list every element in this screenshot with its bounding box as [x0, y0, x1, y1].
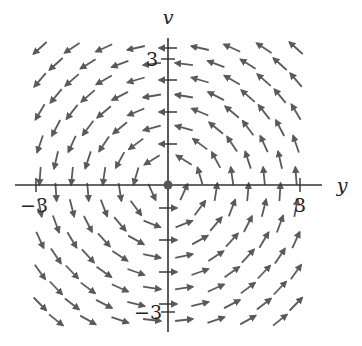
- field-arrow: [192, 269, 209, 275]
- field-arrow: [96, 76, 112, 85]
- field-arrow: [66, 105, 77, 119]
- field-arrow: [242, 249, 254, 262]
- field-arrow: [127, 78, 144, 83]
- v-axis-label: v: [163, 6, 174, 28]
- field-arrow: [292, 232, 299, 248]
- field-arrow: [97, 106, 111, 118]
- field-arrow: [129, 139, 143, 150]
- tick-label-v-pos3: 3: [146, 48, 158, 70]
- field-arrow: [192, 236, 208, 245]
- field-arrow: [52, 120, 60, 136]
- field-arrow: [66, 266, 78, 279]
- equilibrium-point-marker: [164, 181, 173, 190]
- field-arrow: [262, 199, 266, 216]
- field-arrow: [50, 89, 61, 103]
- tick-label-y-pos3: 3: [294, 194, 306, 216]
- field-arrow: [112, 284, 128, 291]
- field-arrow: [116, 152, 125, 168]
- field-arrow: [114, 217, 126, 231]
- field-arrow: [131, 201, 142, 215]
- field-arrow: [175, 63, 193, 65]
- field-arrow: [34, 298, 47, 311]
- field-arrow: [81, 90, 95, 102]
- field-arrow: [258, 105, 269, 119]
- field-arrow: [51, 249, 61, 264]
- field-arrow: [275, 249, 285, 264]
- field-arrow: [210, 217, 222, 231]
- field-arrow: [290, 298, 303, 311]
- field-arrow: [241, 283, 255, 294]
- field-arrow: [84, 216, 92, 232]
- field-arrow: [191, 78, 208, 83]
- field-arrow: [192, 109, 209, 116]
- field-arrow: [71, 167, 73, 185]
- field-arrow: [128, 109, 145, 116]
- field-arrow: [224, 76, 240, 85]
- field-arrow: [229, 200, 235, 217]
- field-arrow: [257, 74, 271, 86]
- field-arrow: [82, 249, 94, 262]
- field-arrow: [103, 167, 106, 185]
- field-arrow: [112, 317, 129, 323]
- field-arrow: [143, 95, 161, 98]
- field-arrow: [277, 216, 283, 233]
- field-arrow: [241, 90, 255, 102]
- field-arrow: [278, 151, 282, 169]
- field-arrow: [245, 151, 251, 168]
- field-arrow: [240, 316, 256, 325]
- field-arrow: [36, 232, 43, 248]
- field-arrow: [231, 167, 234, 185]
- field-arrow: [257, 43, 272, 53]
- field-arrow: [175, 95, 193, 98]
- field-arrow: [37, 136, 43, 153]
- field-arrow: [258, 266, 270, 279]
- field-arrow: [208, 61, 225, 67]
- tick-label-y-neg3: −3: [20, 194, 48, 216]
- field-arrow: [224, 300, 240, 308]
- field-arrow: [276, 120, 284, 136]
- field-arrow: [34, 73, 46, 87]
- field-arrow: [144, 155, 159, 164]
- field-arrow: [35, 265, 45, 280]
- field-arrow: [65, 74, 79, 86]
- field-arrow: [208, 92, 224, 100]
- field-arrow: [175, 287, 193, 290]
- field-arrow: [291, 104, 300, 119]
- field-arrow: [49, 58, 62, 70]
- field-arrow: [274, 282, 286, 295]
- field-arrow: [53, 216, 59, 233]
- field-arrow: [35, 104, 44, 119]
- field-arrow: [274, 89, 285, 103]
- field-arrow: [257, 299, 271, 310]
- field-arrow: [113, 122, 127, 133]
- direction-field-plot: v y 3 −3 −3 3: [0, 0, 362, 346]
- field-arrow: [85, 151, 91, 168]
- field-arrow: [143, 254, 161, 258]
- field-arrow: [128, 236, 144, 245]
- field-arrow: [295, 167, 296, 185]
- field-arrow: [83, 121, 94, 135]
- field-arrow: [134, 167, 139, 184]
- y-axis-label: y: [336, 174, 348, 196]
- field-arrow: [273, 58, 286, 70]
- field-arrow: [259, 232, 268, 247]
- field-arrow: [227, 137, 237, 152]
- field-arrow: [68, 136, 75, 152]
- field-arrow: [273, 314, 287, 325]
- field-arrow: [96, 300, 112, 308]
- field-arrow: [244, 216, 252, 232]
- field-arrow: [96, 44, 112, 51]
- field-arrow: [143, 126, 160, 131]
- field-arrow: [176, 221, 193, 228]
- field-arrow: [240, 59, 255, 69]
- field-arrow: [39, 167, 40, 185]
- field-arrow: [195, 201, 206, 215]
- field-arrow: [67, 232, 76, 247]
- tick-label-v-neg3: −3: [134, 301, 162, 323]
- field-arrow: [144, 221, 161, 228]
- field-arrow: [291, 265, 301, 280]
- field-arrow: [143, 287, 161, 290]
- field-arrow: [80, 316, 96, 325]
- field-arrow: [293, 136, 299, 153]
- field-arrow: [224, 44, 240, 51]
